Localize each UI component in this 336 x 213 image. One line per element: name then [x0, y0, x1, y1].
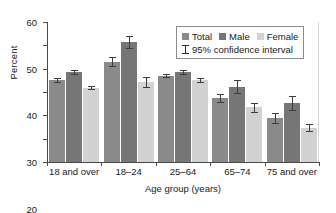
error-bar-cap-top	[197, 78, 204, 79]
legend-swatch-female-icon	[257, 33, 264, 40]
bar-total	[267, 118, 283, 162]
x-tick	[319, 162, 320, 166]
error-bar-cap-top	[54, 78, 61, 79]
error-bar-line	[146, 77, 147, 88]
legend-series-row: Total Male Female	[182, 30, 298, 42]
y-tick: 20	[43, 115, 47, 116]
error-bar-cap-top	[180, 70, 187, 71]
bar-female	[301, 128, 317, 162]
error-bar-line	[129, 36, 130, 49]
y-tick: 30	[43, 92, 47, 93]
x-category-label: 25–64	[170, 166, 196, 177]
error-bar-cap-top	[289, 96, 296, 97]
legend: Total Male Female 95% confidence interva…	[176, 26, 304, 59]
legend-label-ci: 95% confidence interval	[192, 44, 293, 55]
y-tick: 10	[43, 139, 47, 140]
error-bar-cap-bottom	[109, 66, 116, 67]
bar-female	[138, 82, 154, 162]
bar-group	[49, 22, 99, 162]
error-bar-cap-top	[88, 86, 95, 87]
error-bar-cap-bottom	[234, 93, 241, 94]
error-bar-line	[237, 80, 238, 93]
y-tick-label: 60	[26, 17, 37, 28]
error-bar-cap-top	[234, 80, 241, 81]
error-bar-cap-bottom	[272, 123, 279, 124]
error-bar-cap-bottom	[197, 82, 204, 83]
legend-swatch-male-icon	[219, 33, 226, 40]
bar-male	[175, 72, 191, 162]
legend-label-total: Total	[192, 31, 212, 42]
y-tick-label: 30	[26, 157, 37, 168]
plot-right-border	[318, 22, 319, 162]
error-bar-line	[112, 57, 113, 66]
x-category-label: 65–74	[224, 166, 250, 177]
error-bar-line	[309, 124, 310, 131]
x-axis-title: Age group (years)	[47, 183, 319, 194]
error-bar-cap-bottom	[163, 77, 170, 78]
bar-group	[104, 22, 154, 162]
error-bar-cap-top	[71, 70, 78, 71]
error-bar-cap-top	[217, 94, 224, 95]
error-bar-line	[292, 96, 293, 110]
error-bar-cap-bottom	[88, 89, 95, 90]
bar-total	[158, 76, 174, 162]
error-bar-cap-bottom	[251, 112, 258, 113]
error-bar-icon	[182, 45, 189, 54]
x-category-label: 18 and over	[49, 166, 99, 177]
bar-male	[66, 72, 82, 162]
error-bar-cap-bottom	[126, 48, 133, 49]
error-bar-cap-top	[306, 124, 313, 125]
bar-male	[229, 87, 245, 162]
bar-total	[49, 80, 65, 162]
x-axis-category-labels: 18 and over18–2425–6465–7475 and over	[47, 166, 319, 180]
legend-item-female: Female	[257, 31, 299, 42]
error-bar-cap-bottom	[71, 74, 78, 75]
error-bar-cap-top	[163, 74, 170, 75]
y-tick: 50	[43, 45, 47, 46]
error-bar-cap-bottom	[289, 110, 296, 111]
error-bar-cap-bottom	[306, 131, 313, 132]
error-bar-cap-top	[143, 77, 150, 78]
error-bar-line	[275, 113, 276, 122]
error-bar-line	[254, 103, 255, 112]
y-tick-label: 50	[26, 63, 37, 74]
x-category-label: 75 and over	[267, 166, 317, 177]
y-axis-line	[47, 22, 48, 162]
bar-total	[104, 62, 120, 162]
error-bar-line	[220, 94, 221, 101]
error-bar-cap-bottom	[143, 87, 150, 88]
legend-swatch-total-icon	[182, 33, 189, 40]
bar-male	[121, 42, 137, 162]
y-tick: 40	[43, 69, 47, 70]
error-bar-cap-top	[126, 36, 133, 37]
x-axis-line	[47, 162, 319, 163]
error-bar-cap-top	[109, 57, 116, 58]
legend-item-total: Total	[182, 31, 212, 42]
error-bar-cap-top	[251, 103, 258, 104]
legend-label-female: Female	[267, 31, 299, 42]
bar-female	[246, 107, 262, 162]
bar-female	[83, 88, 99, 162]
legend-ci-row: 95% confidence interval	[182, 43, 298, 55]
error-bar-cap-bottom	[217, 102, 224, 103]
y-tick: 60	[43, 22, 47, 23]
error-bar-cap-bottom	[180, 74, 187, 75]
bar-female	[192, 80, 208, 162]
y-tick-label: 20	[26, 203, 37, 213]
bar-total	[212, 98, 228, 162]
legend-item-male: Male	[219, 31, 250, 42]
bar-male	[284, 103, 300, 162]
error-bar-cap-top	[272, 113, 279, 114]
legend-label-male: Male	[229, 31, 250, 42]
x-category-label: 18–24	[115, 166, 141, 177]
bar-chart: Percent 0102030405060 18 and over18–2425…	[0, 0, 336, 213]
y-tick-label: 40	[26, 110, 37, 121]
error-bar-cap-bottom	[54, 82, 61, 83]
y-axis-title: Percent	[8, 28, 19, 98]
